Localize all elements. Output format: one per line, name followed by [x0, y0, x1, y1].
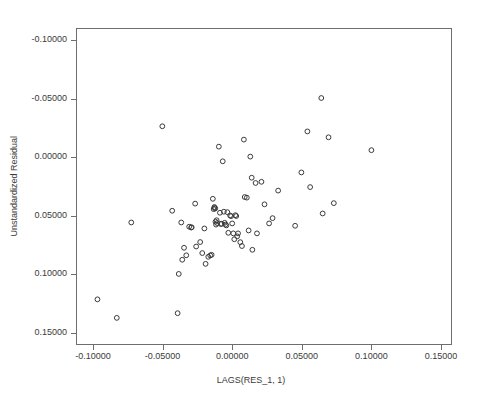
plot-area — [76, 28, 452, 345]
x-axis-tick — [441, 345, 442, 350]
y-axis-tick — [71, 216, 76, 217]
x-axis-tick — [93, 345, 94, 350]
x-axis-title: LAGS(RES_1, 1) — [0, 375, 478, 385]
x-axis-tick — [302, 345, 303, 350]
y-axis-tick-label: 0.05000 — [34, 211, 67, 220]
y-axis-title-text: Unstandardized Residual — [9, 136, 19, 237]
y-axis-tick-label: 0.00000 — [34, 152, 67, 161]
y-axis-tick — [71, 274, 76, 275]
x-axis-tick — [232, 345, 233, 350]
x-axis-title-text: LAGS(RES_1, 1) — [217, 375, 286, 385]
x-axis-tick — [371, 345, 372, 350]
x-axis-tick-label: 0.00000 — [216, 352, 249, 361]
x-axis-tick — [163, 345, 164, 350]
y-axis-tick-label: 0.10000 — [34, 269, 67, 278]
y-axis-tick — [71, 99, 76, 100]
y-axis-tick-label: -0.10000 — [31, 35, 67, 44]
x-axis-tick-label: 0.10000 — [355, 352, 388, 361]
scatterplot-figure: 0.150000.100000.050000.00000-0.05000-0.1… — [0, 0, 478, 407]
y-axis-tick-label: 0.15000 — [34, 328, 67, 337]
y-axis-tick — [71, 333, 76, 334]
x-axis-tick-label: 0.15000 — [425, 352, 458, 361]
x-axis-tick-label: -0.05000 — [145, 352, 181, 361]
y-axis-tick — [71, 157, 76, 158]
y-axis-tick — [71, 40, 76, 41]
x-axis-tick-label: -0.10000 — [75, 352, 111, 361]
x-axis-tick-label: 0.05000 — [286, 352, 319, 361]
y-axis-title: Unstandardized Residual — [9, 0, 19, 373]
y-axis-tick-label: -0.05000 — [31, 94, 67, 103]
